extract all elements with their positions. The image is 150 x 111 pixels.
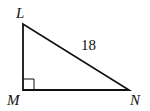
triangle-lmn: [23, 24, 129, 90]
vertex-label-m: M: [6, 92, 21, 108]
side-label-ln: 18: [81, 37, 96, 53]
vertex-label-n: N: [129, 92, 141, 108]
vertex-label-l: L: [15, 5, 24, 21]
right-triangle-diagram: L M N 18: [0, 0, 150, 111]
right-angle-marker: [23, 79, 34, 90]
